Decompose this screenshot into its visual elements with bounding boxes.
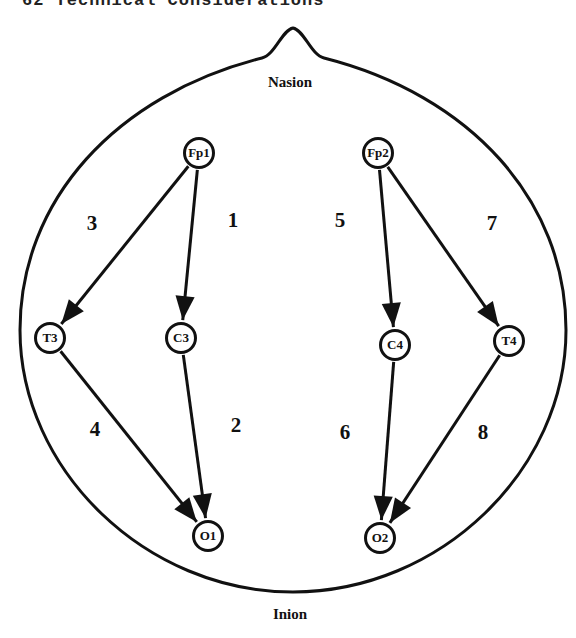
channel-number-3: 3 bbox=[87, 211, 98, 236]
inion-label: Inion bbox=[273, 606, 307, 623]
channel-number-5: 5 bbox=[335, 208, 346, 233]
channel-arrow-3 bbox=[61, 166, 188, 324]
electrode-label: Fp1 bbox=[188, 145, 210, 161]
channel-number-8: 8 bbox=[478, 420, 489, 445]
electrode-t4: T4 bbox=[493, 325, 525, 357]
channel-arrow-2 bbox=[183, 355, 205, 518]
channel-number-4: 4 bbox=[90, 417, 101, 442]
channel-number-1: 1 bbox=[228, 208, 239, 233]
channel-arrow-5 bbox=[379, 170, 393, 327]
electrode-o1: O1 bbox=[192, 520, 224, 552]
channel-number-7: 7 bbox=[487, 211, 498, 236]
electrode-label: O1 bbox=[200, 528, 217, 544]
channel-arrow-7 bbox=[388, 167, 499, 326]
electrode-label: Fp2 bbox=[367, 145, 389, 161]
electrode-c3: C3 bbox=[165, 322, 197, 354]
electrode-label: C4 bbox=[387, 337, 403, 353]
channel-number-6: 6 bbox=[340, 420, 351, 445]
head-diagram bbox=[0, 0, 576, 638]
electrode-o2: O2 bbox=[364, 522, 396, 554]
channel-arrow-1 bbox=[183, 170, 198, 320]
head-outline bbox=[20, 28, 566, 592]
channel-arrows bbox=[61, 166, 500, 523]
channel-arrow-6 bbox=[381, 362, 393, 520]
electrode-label: O2 bbox=[372, 530, 389, 546]
electrode-fp1: Fp1 bbox=[183, 137, 215, 169]
channel-number-2: 2 bbox=[231, 413, 242, 438]
electrode-label: C3 bbox=[173, 330, 189, 346]
electrode-fp2: Fp2 bbox=[362, 137, 394, 169]
electrode-label: T4 bbox=[501, 333, 516, 349]
channel-arrow-4 bbox=[61, 351, 197, 522]
nasion-label: Nasion bbox=[268, 74, 312, 91]
electrode-t3: T3 bbox=[34, 322, 66, 354]
electrode-c4: C4 bbox=[379, 329, 411, 361]
electrode-label: T3 bbox=[42, 330, 57, 346]
